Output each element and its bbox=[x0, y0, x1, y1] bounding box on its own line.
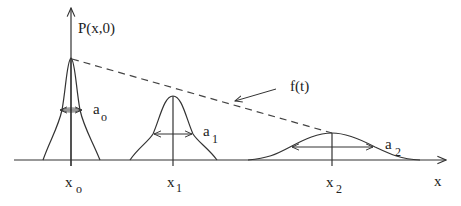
position-label-0: x bbox=[65, 174, 73, 190]
envelope-pointer-arrow bbox=[235, 89, 276, 101]
position-label-2: x bbox=[326, 174, 334, 190]
y-axis-label: P(x,0) bbox=[78, 20, 115, 37]
width-label-0: a bbox=[93, 101, 100, 117]
envelope-label: f(t) bbox=[290, 78, 309, 95]
position-sub-1: 1 bbox=[176, 181, 182, 195]
width-sub-0: o bbox=[101, 110, 107, 124]
packet-0: a o x o bbox=[43, 58, 107, 196]
width-label-2: a bbox=[385, 136, 392, 152]
wave-packet-diagram: P(x,0) f(t) a o x o a 1 x 1 a 2 x 2 x bbox=[0, 0, 461, 206]
packet-2: a 2 x 2 bbox=[248, 133, 420, 196]
packet-1: a 1 x 1 bbox=[130, 96, 218, 195]
width-label-1: a bbox=[203, 123, 210, 139]
envelope-dashed-line bbox=[72, 59, 332, 133]
position-sub-0: o bbox=[76, 182, 82, 196]
position-sub-2: 2 bbox=[336, 182, 342, 196]
width-sub-2: 2 bbox=[395, 145, 401, 159]
position-label-1: x bbox=[167, 174, 175, 190]
width-sub-1: 1 bbox=[212, 132, 218, 146]
x-axis-label: x bbox=[434, 173, 442, 189]
